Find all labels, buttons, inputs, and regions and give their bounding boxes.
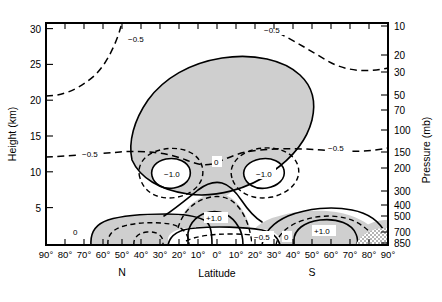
y-right-tick-400: 400: [394, 200, 411, 211]
x-tick-label-16: 70°: [343, 249, 358, 260]
x-tick-label-13: 40°: [286, 249, 301, 260]
contour-label-zero-north-lower: 0: [73, 228, 78, 237]
x-tick-label-8: 10°: [191, 249, 206, 260]
x-tick-label-1: 80°: [58, 249, 73, 260]
x-tick-label-10: 10°: [229, 249, 244, 260]
y-right-tick-500: 500: [394, 211, 411, 222]
y-right-tick-100: 100: [394, 125, 411, 136]
y-right-tick-70: 70: [394, 105, 406, 116]
contour-label-neg05-mid-left: −0.5: [82, 150, 98, 159]
x-tick-label-9: 0°: [212, 249, 221, 260]
contour-label-neg10-south: −1.0: [256, 170, 272, 179]
y-right-tick-20: 20: [394, 50, 406, 61]
y-left-tick-20: 20: [30, 95, 42, 106]
x-tick-label-4: 50°: [115, 249, 130, 260]
x-tick-label-3: 60°: [96, 249, 111, 260]
x-axis-title: Latitude: [198, 267, 236, 279]
contour-label-pos10-southern: +1.0: [314, 227, 330, 236]
y-left-tick-15: 15: [30, 131, 42, 142]
y-right-tick-700: 700: [394, 227, 411, 238]
contour-label-neg05-upper-right: −0.5: [264, 26, 280, 35]
y-left-tick-10: 10: [30, 167, 42, 178]
x-tick-label-15: 60°: [324, 249, 339, 260]
y-right-tick-200: 200: [394, 163, 411, 174]
contour-label-neg05-mid-right: −0.5: [328, 144, 344, 153]
y-right-tick-50: 50: [394, 90, 406, 101]
x-tick-label-2: 70°: [77, 249, 92, 260]
y-axis-left-title: Height (km): [6, 107, 18, 161]
x-tick-label-14: 50°: [305, 249, 320, 260]
x-tick-label-12: 30°: [267, 249, 282, 260]
contour-label-neg05-surface: −0.5: [254, 233, 270, 242]
x-tick-label-6: 30°: [153, 249, 168, 260]
latitude-height-contour-chart: −0.5 −0.5 −0.5 −0.5 0 −1.0 −1.0 +1.0 +1.…: [0, 0, 442, 302]
x-tick-label-5: 40°: [134, 249, 149, 260]
y-right-tick-150: 150: [394, 147, 411, 158]
contour-label-zero-surface: 0: [284, 233, 289, 242]
y-right-tick-30: 30: [394, 67, 406, 78]
contour-label-neg05-upper-left: −0.5: [128, 35, 144, 44]
y-right-tick-850: 850: [394, 238, 411, 249]
x-tick-label-7: 20°: [172, 249, 187, 260]
y-axis-right-title: Pressure (mb): [420, 117, 432, 184]
x-tick-label-11: 20°: [248, 249, 263, 260]
y-left-tick-30: 30: [30, 24, 42, 35]
y-left-tick-5: 5: [35, 203, 41, 214]
y-right-tick-300: 300: [394, 186, 411, 197]
hemisphere-label-north: N: [118, 266, 126, 278]
y-left-tick-25: 25: [30, 59, 42, 70]
contour-label-zero-mid: 0: [214, 158, 219, 167]
x-tick-label-0: 90°: [39, 249, 54, 260]
x-tick-label-17: 80°: [362, 249, 377, 260]
x-tick-label-18: 90°: [381, 249, 396, 260]
contour-label-pos10-tropical: +1.0: [206, 214, 222, 223]
contour-label-neg10-north: −1.0: [164, 170, 180, 179]
hemisphere-label-south: S: [308, 266, 315, 278]
y-right-tick-10: 10: [394, 21, 406, 32]
